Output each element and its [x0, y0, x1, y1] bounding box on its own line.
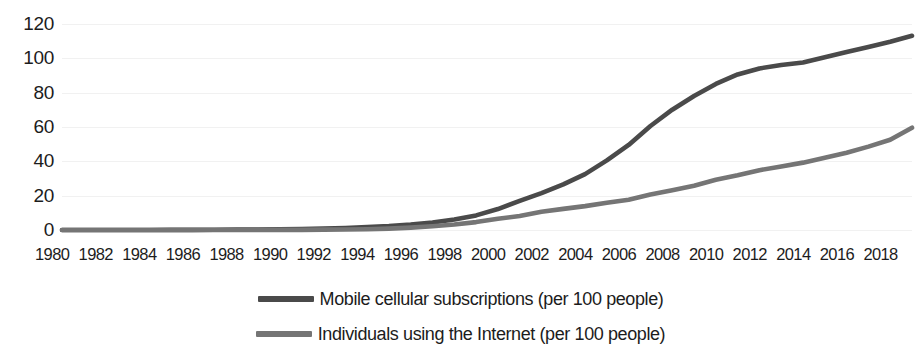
- series-container: [62, 10, 912, 230]
- x-tick-label: 1990: [253, 243, 287, 265]
- x-tick-label: 2000: [471, 243, 505, 265]
- y-tick-label: 20: [0, 186, 54, 205]
- x-tick-label: 1988: [209, 243, 243, 265]
- y-tick-label: 80: [0, 83, 54, 102]
- line-chart: 020406080100120 198019821984198619881990…: [0, 0, 921, 359]
- series-line-2: [62, 128, 912, 230]
- y-tick-label: 100: [0, 48, 54, 67]
- x-axis: 1980198219841986198819901992199419961998…: [62, 243, 921, 269]
- legend-swatch-icon: [256, 331, 312, 337]
- x-tick-label: 2002: [515, 243, 549, 265]
- y-tick-label: 40: [0, 151, 54, 170]
- legend-label: Mobile cellular subscriptions (per 100 p…: [320, 288, 664, 310]
- y-tick-label: 0: [0, 220, 54, 239]
- x-tick-label: 2004: [558, 243, 592, 265]
- x-tick-label: 2010: [689, 243, 723, 265]
- plot-area: [62, 10, 912, 230]
- y-tick-label: 120: [0, 14, 54, 33]
- x-tick-label: 2008: [645, 243, 679, 265]
- x-tick-label: 2014: [776, 243, 810, 265]
- legend-item[interactable]: Mobile cellular subscriptions (per 100 p…: [0, 284, 921, 314]
- x-tick-label: 1994: [340, 243, 374, 265]
- x-tick-label: 1992: [297, 243, 331, 265]
- legend-swatch-icon: [258, 296, 314, 302]
- x-tick-label: 1980: [35, 243, 69, 265]
- y-axis: 020406080100120: [0, 0, 54, 240]
- series-line-1: [62, 36, 912, 230]
- x-tick-label: 2012: [733, 243, 767, 265]
- x-tick-label: 1996: [384, 243, 418, 265]
- x-tick-label: 1998: [427, 243, 461, 265]
- x-tick-label: 2006: [602, 243, 636, 265]
- x-tick-label: 2018: [863, 243, 897, 265]
- x-tick-label: 1982: [79, 243, 113, 265]
- x-tick-label: 1986: [166, 243, 200, 265]
- legend-label: Individuals using the Internet (per 100 …: [318, 323, 665, 345]
- chart-legend: Mobile cellular subscriptions (per 100 p…: [0, 284, 921, 356]
- x-tick-label: 1984: [122, 243, 156, 265]
- legend-item[interactable]: Individuals using the Internet (per 100 …: [0, 319, 921, 349]
- y-tick-label: 60: [0, 117, 54, 136]
- x-tick-label: 2016: [820, 243, 854, 265]
